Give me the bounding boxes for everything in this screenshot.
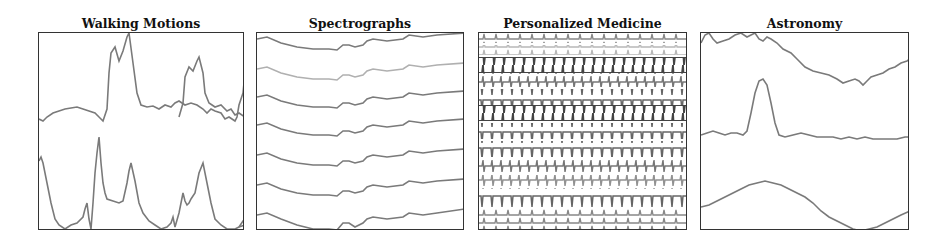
plot-area [38, 32, 244, 230]
spectrographs-plot [257, 33, 464, 230]
plot-area [700, 32, 909, 230]
plot-area [478, 32, 687, 230]
plot-area [256, 32, 464, 230]
panel-title: Astronomy [700, 16, 909, 31]
panel-title: Spectrographs [256, 16, 464, 31]
panel-title: Personalized Medicine [478, 16, 687, 31]
astronomy-plot [701, 33, 909, 230]
personalized-medicine-plot [479, 33, 687, 230]
walking-motions-plot [39, 33, 244, 230]
panel-title: Walking Motions [38, 16, 244, 31]
